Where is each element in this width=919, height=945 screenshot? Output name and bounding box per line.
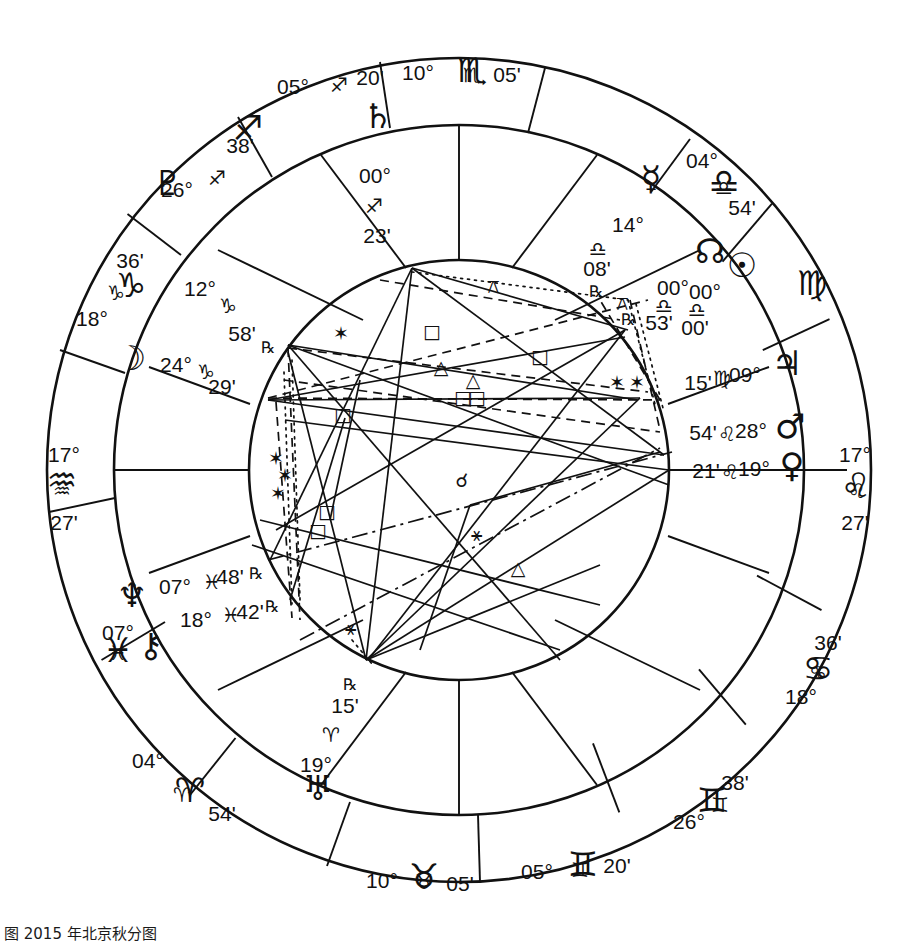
astrology-chart-wheel: 10°♏05'05°♐20'26°♐38'18°♑36'17°♒27'07°♓0… [0,0,919,945]
cusp-label-h11: 05°♐20' [277,66,384,98]
aspect-sextile-icon: ✶ [270,482,286,504]
zodiac-glyph-taurus: ♉ [409,856,439,896]
mars-minute: 54' [689,421,716,444]
cusp-degree: 18° [76,307,108,330]
chiron-degree: 18° [180,608,212,631]
cusp-sign-glyph: ♐ [330,73,348,97]
jupiter-degree: 09° [729,363,761,386]
aspect-sextile-icon: ✶ [333,322,349,344]
neptune-minute: 48' [216,565,243,588]
aspect-quincunx-icon: ⚻ [487,275,500,297]
pluto-degree: 12° [184,277,216,300]
zodiac-glyph-capricorn: ♑ [116,265,146,305]
zodiac-glyph-aries: ♈ [175,770,205,810]
planet-venus: ♀19°♌21' [692,445,804,485]
chiron-icon: ⚷ [139,625,164,665]
cusp-minute: 20' [356,66,383,89]
aspect-semisextile-icon: ⚹ [471,523,483,545]
zodiac-glyph-gemini2: ♊ [697,780,727,820]
aspect-sextile-icon: ✶ [629,371,645,393]
jupiter-minute: 15' [684,371,711,394]
zodiac-glyph-sagittarius: ♐ [233,108,263,148]
venus-sign-glyph: ♌ [721,460,739,484]
cusp-degree: 10° [366,869,398,892]
north-node-minute: 53' [645,311,672,334]
uranus-retrograde-icon: ℞ [343,676,357,693]
mercury-icon: ☿ [641,158,662,198]
figure-caption: 图 2015 年北京秋分图 [4,922,157,943]
mercury-minute: 08' [583,257,610,280]
zodiac-glyph-cancer: ♋ [803,648,833,688]
cusp-minute: 20' [603,854,630,877]
cusp-degree: 04° [132,749,164,772]
aspect-trine-icon: △ [511,557,526,579]
moon-icon: ☽ [116,338,146,378]
cusp-minute: 27' [50,511,77,534]
cusp-minute: 05' [493,63,520,86]
moon-degree: 24° [160,353,192,376]
cusp-degree: 18° [785,685,817,708]
aspect-trine-icon: △ [466,369,481,391]
planet-mars: ♂28°♌54' [689,406,805,446]
planet-moon: ☽24°♑29' [116,338,236,398]
aspect-lines [252,268,672,664]
cusp-minute: 27' [841,511,868,534]
planet-jupiter: ♃09°♍15' [684,343,802,394]
jupiter-sign-glyph: ♍ [713,366,731,390]
aspect-square-icon: □ [334,403,352,425]
aspect-symbol-layer: □□□□□□□△△△✶✶✶✶✶✶☌⚹⚹⚻⚻ [268,275,645,639]
chiron-minute: 42' [236,600,263,623]
planet-uranus: ♅19°♈15'℞ [300,676,359,808]
jupiter-icon: ♃ [772,343,802,383]
cusp-minute: 54' [208,802,235,825]
uranus-minute: 15' [331,694,358,717]
cusp-degree: 05° [521,860,553,883]
pluto-retrograde-icon: ℞ [261,339,275,356]
planet-label-layer: ♄00°♐23'☿14°♎08'℞☊00°♎53'℞☉00°♎00'♃09°♍1… [116,96,805,808]
pluto-minute: 58' [228,322,255,345]
aspect-conjunction-icon: ☌ [456,469,469,491]
neptune-retrograde-icon: ℞ [249,565,263,582]
planet-mercury: ☿14°♎08'℞ [583,158,661,300]
aspect-square-icon: □ [309,519,327,541]
aspect-square-icon: □ [531,345,549,367]
neptune-icon: ♆ [117,575,147,615]
aspect-semisextile-icon: ⚹ [345,617,357,639]
zodiac-glyph-virgo: ♍ [797,263,827,303]
venus-minute: 21' [692,459,719,482]
pluto-sign-glyph: ♑ [219,294,237,318]
sun-minute: 00' [681,316,708,339]
mercury-degree: 14° [612,213,644,236]
zodiac-glyph-aquarius: ♒ [47,460,77,500]
cusp-sign-glyph: ♐ [208,166,226,190]
cusp-degree: 10° [402,61,434,84]
planet-saturn: ♄00°♐23' [359,96,393,247]
mars-icon: ♂ [775,406,805,446]
cusp-degree: 05° [277,75,309,98]
aspect-quincunx-icon: ⚻ [616,292,629,314]
aspect-sextile-icon: ✶ [609,371,625,393]
zodiac-glyph-gemini: ♊ [568,844,598,884]
chart-svg: 10°♏05'05°♐20'26°♐38'18°♑36'17°♒27'07°♓0… [0,0,919,945]
mercury-retrograde-icon: ℞ [589,283,603,300]
saturn-minute: 23' [363,224,390,247]
cusp-minute: 05' [446,872,473,895]
pluto-icon: ♇ [153,163,183,203]
zodiac-glyph-libra: ♎ [709,161,739,201]
zodiac-glyph-scorpio: ♏ [457,50,487,90]
north-node-icon: ☊ [695,231,725,271]
uranus-degree: 19° [300,753,332,776]
mars-sign-glyph: ♌ [718,422,736,446]
zodiac-glyph-leo: ♌ [841,465,871,505]
neptune-degree: 07° [159,575,191,598]
venus-icon: ♀ [780,445,805,485]
mars-degree: 28° [735,419,767,442]
cusp-degree: 17° [839,443,871,466]
saturn-degree: 00° [359,164,391,187]
aspect-square-icon: □ [423,320,441,342]
saturn-sign-glyph: ♐ [365,194,383,218]
uranus-sign-glyph: ♈ [322,723,340,747]
chiron-retrograde-icon: ℞ [265,598,279,615]
venus-degree: 19° [738,457,770,480]
aspect-trine-icon: △ [434,356,449,378]
